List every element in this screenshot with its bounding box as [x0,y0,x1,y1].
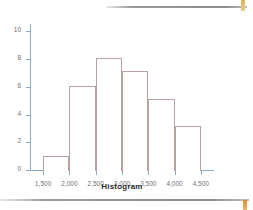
histogram-bar [96,58,122,171]
page-top-rule [106,6,247,8]
y-tick: 10 [26,31,30,32]
histogram-bar [122,71,148,171]
y-tick-label: 2 [17,137,21,144]
x-tick [43,171,44,175]
histogram-chart: 0246810 1,5002,0002,5003,0003,5004,0004,… [0,10,253,198]
y-tick-label: 8 [17,54,21,61]
y-tick: 0 [26,170,30,171]
x-tick [201,171,202,175]
page-bottom-orange-mark [243,200,247,210]
x-tick [175,171,176,175]
y-tick: 8 [26,59,30,60]
y-tick-label: 10 [14,26,21,33]
x-tick [148,171,149,175]
histogram-bar [43,156,69,171]
x-tick [96,171,97,175]
y-tick: 4 [26,115,30,116]
histogram-bar [175,126,201,171]
histogram-bar [69,86,95,171]
x-tick [122,171,123,175]
y-tick: 6 [26,87,30,88]
y-tick-label: 4 [17,110,21,117]
x-tick [69,171,70,175]
y-tick: 2 [26,142,30,143]
histogram-bar [148,99,174,171]
y-tick-label: 0 [17,165,21,172]
y-axis-line [30,24,31,171]
chart-title: Histogram [30,182,214,191]
page-bottom-rule [0,199,249,201]
y-tick-label: 6 [17,82,21,89]
plot-area: 0246810 1,5002,0002,5003,0003,5004,0004,… [30,24,214,171]
